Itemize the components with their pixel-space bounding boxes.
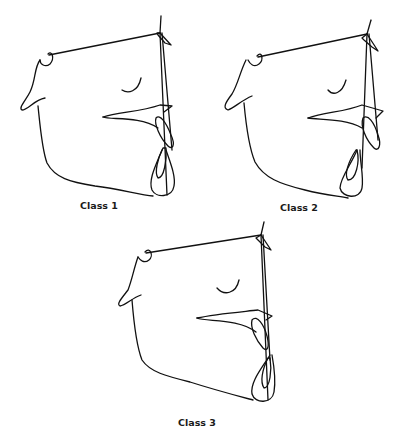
class-3-label: Class 3 — [178, 417, 216, 428]
class-3-cephalometric-drawing — [100, 210, 300, 431]
class-2-cephalometric-drawing — [200, 0, 396, 220]
class-1-cephalometric-drawing — [0, 0, 200, 220]
class-1-tracing — [0, 0, 200, 220]
class-2-tracing — [200, 0, 396, 220]
class-3-tracing — [100, 210, 300, 431]
